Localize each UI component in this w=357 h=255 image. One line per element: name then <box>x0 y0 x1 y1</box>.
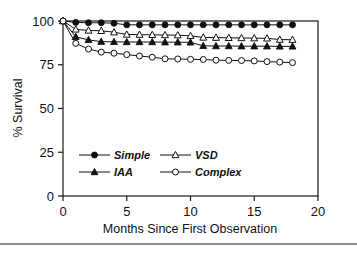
x-tick-label: 0 <box>59 204 66 219</box>
x-tick-label: 5 <box>123 204 130 219</box>
data-point-marker <box>124 22 130 28</box>
data-point-marker <box>86 46 92 52</box>
x-tick-label: 20 <box>311 204 325 219</box>
figure-panel: 0255075100 05101520 SimpleVSDIAAComplex … <box>0 0 357 255</box>
data-point-marker <box>111 20 117 26</box>
data-point-marker <box>200 57 206 63</box>
legend-label: IAA <box>114 166 133 178</box>
legend-label: Complex <box>195 166 242 178</box>
data-point-marker <box>213 22 219 28</box>
data-point-marker <box>264 59 270 65</box>
data-point-marker <box>200 22 206 28</box>
data-point-marker <box>162 22 168 28</box>
data-point-marker <box>226 22 232 28</box>
x-tick-label: 15 <box>247 204 261 219</box>
data-point-marker <box>111 50 117 56</box>
figure-bottom-rule <box>0 243 357 245</box>
y-tick-label: 75 <box>40 57 54 72</box>
data-point-marker <box>251 22 257 28</box>
data-point-marker <box>137 22 143 28</box>
x-tick-label: 10 <box>183 204 197 219</box>
data-point-marker <box>149 22 155 28</box>
data-point-marker <box>137 53 143 59</box>
data-point-marker <box>60 18 66 24</box>
data-point-marker <box>277 22 283 28</box>
data-point-marker <box>239 58 245 64</box>
y-tick-label: 100 <box>32 14 54 29</box>
legend-item-simple: Simple <box>79 149 150 161</box>
y-axis-ticks <box>58 21 63 196</box>
data-point-marker <box>173 169 179 175</box>
y-tick-label: 25 <box>40 145 54 160</box>
legend-item-iaa: IAA <box>79 166 133 178</box>
data-series-layer <box>60 17 296 65</box>
data-point-marker <box>73 19 79 25</box>
data-point-marker <box>226 57 232 63</box>
data-point-marker <box>290 60 296 66</box>
data-point-marker <box>277 59 283 65</box>
x-axis-title: Months Since First Observation <box>103 222 277 236</box>
data-point-marker <box>188 56 194 62</box>
data-point-marker <box>98 49 104 55</box>
x-axis-ticks <box>63 196 318 201</box>
data-point-marker <box>175 22 181 28</box>
data-point-marker <box>98 20 104 26</box>
data-point-marker <box>239 22 245 28</box>
y-tick-label: 50 <box>40 101 54 116</box>
x-axis-tick-labels: 05101520 <box>59 204 325 219</box>
survival-line-chart: 0255075100 05101520 SimpleVSDIAAComplex … <box>0 0 357 255</box>
y-axis-title: % Survival <box>11 78 25 137</box>
data-point-marker <box>251 58 257 64</box>
legend-label: Simple <box>114 149 150 161</box>
data-point-marker <box>124 52 130 58</box>
data-point-marker <box>175 56 181 62</box>
legend-label: VSD <box>195 149 218 161</box>
data-point-marker <box>149 54 155 60</box>
data-point-marker <box>162 56 168 62</box>
y-axis-tick-labels: 0255075100 <box>32 14 54 204</box>
data-point-marker <box>73 40 79 46</box>
chart-legend: SimpleVSDIAAComplex <box>79 149 242 178</box>
data-point-marker <box>72 26 79 32</box>
legend-item-complex: Complex <box>160 166 242 178</box>
legend-item-vsd: VSD <box>160 149 218 161</box>
data-point-marker <box>188 22 194 28</box>
data-point-marker <box>86 20 92 26</box>
data-point-marker <box>264 22 270 28</box>
data-point-marker <box>92 152 98 158</box>
y-tick-label: 0 <box>47 189 54 204</box>
data-point-marker <box>213 57 219 63</box>
data-point-marker <box>290 22 296 28</box>
series-simple <box>60 18 296 28</box>
